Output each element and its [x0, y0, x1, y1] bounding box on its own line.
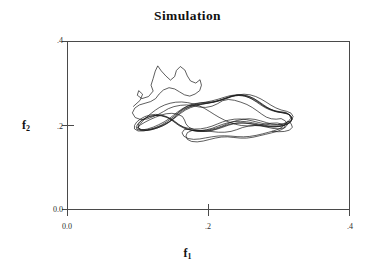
y-tick-label-top: .4: [33, 36, 63, 45]
y-tick-label-mid: .2: [33, 122, 63, 131]
x-axis-title-subscript: 1: [188, 252, 192, 261]
x-tick-label-mid: .2: [193, 222, 223, 231]
y-axis-title-subscript: 2: [26, 124, 30, 133]
x-axis-title-base: f: [184, 246, 188, 260]
x-tick-label-left: 0.0: [52, 222, 82, 231]
x-axis-title: f1: [0, 246, 375, 261]
x-tick-label-right: .4: [335, 222, 365, 231]
y-tick-label-bottom: 0.0: [33, 205, 63, 214]
chart-title: Simulation: [0, 8, 375, 24]
y-axis-title: f2: [22, 118, 30, 133]
plot-frame: [67, 41, 350, 210]
chart-figure: Simulation .4 .2 0.0 0.0 .2 .4 f2 f1: [0, 0, 375, 274]
